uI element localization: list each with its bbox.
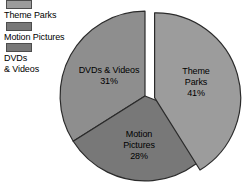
pie-label-motion-pictures-line2: Pictures <box>123 140 155 150</box>
pie-label-dvds-videos-line2: 31% <box>100 76 118 86</box>
pie-chart-figure: Theme Parks Motion Pictures DVDs & Video… <box>0 0 244 192</box>
pie-label-theme-parks-line3: 41% <box>187 88 205 98</box>
pie-label-motion-pictures-line1: Motion <box>126 129 153 139</box>
pie-label-dvds-videos-line1: DVDs & Videos <box>79 65 140 75</box>
pie-label-theme-parks-line2: Parks <box>185 77 208 87</box>
pie-svg: DVDs & Videos 31% Motion Pictures 28% Th… <box>0 0 244 192</box>
pie-label-theme-parks-line1: Theme <box>182 66 210 76</box>
pie-label-motion-pictures-line3: 28% <box>130 151 148 161</box>
